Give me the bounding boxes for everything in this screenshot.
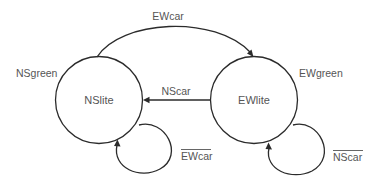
transition-ewlite-self-loop: NScar (266, 124, 364, 175)
state-diagram: NSlite EWlite NSgreen EWgreen EWcar NSca… (0, 0, 379, 182)
transition-ewlite-to-nslite: NScar (143, 85, 211, 103)
state-nslite-label: NSlite (84, 94, 113, 106)
self-loop-nslite (116, 124, 171, 173)
output-label-ewgreen: EWgreen (299, 67, 343, 79)
output-label-nsgreen: NSgreen (16, 67, 58, 79)
transition-label-ewcar: EWcar (152, 10, 184, 22)
state-ewlite-label: EWlite (238, 94, 270, 106)
transition-label-not-nscar: NScar (333, 151, 363, 163)
state-ewlite: EWlite (211, 57, 298, 144)
arrowhead-icon (143, 97, 150, 103)
transition-label-not-ewcar: EWcar (181, 150, 213, 162)
transition-arc-top (97, 26, 251, 57)
transition-nslite-to-ewlite: EWcar (97, 10, 254, 57)
arrowhead-icon (266, 143, 273, 150)
transition-label-nscar: NScar (161, 85, 191, 97)
self-loop-ewlite (268, 124, 324, 175)
state-nslite: NSlite (56, 57, 143, 144)
